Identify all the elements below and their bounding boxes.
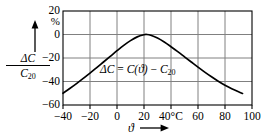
y-axis-title: ΔC C20 bbox=[6, 52, 50, 81]
y-axis-unit-label: % bbox=[22, 16, 60, 27]
formula-equals: = bbox=[117, 63, 124, 75]
y-axis-denominator: C20 bbox=[6, 66, 50, 81]
y-tick-label-0: 20 bbox=[22, 5, 60, 17]
formula-c-of-theta: C(ϑ) bbox=[127, 63, 148, 75]
y-tick-label-1: 0 bbox=[22, 29, 60, 41]
y-axis-denominator-symbol: C bbox=[20, 67, 28, 79]
x-axis-arrow-head bbox=[161, 125, 169, 132]
y-axis-denominator-subscript: 20 bbox=[28, 72, 36, 81]
formula-c20-symbol: C bbox=[160, 63, 168, 75]
y-tick-label-4: −60 bbox=[22, 99, 60, 111]
formula-delta-c: ΔC bbox=[100, 63, 114, 75]
formula-minus: − bbox=[151, 63, 158, 75]
gridlines-group bbox=[63, 11, 252, 105]
x-axis-title: ϑ bbox=[128, 122, 134, 134]
capacitance-temperature-chart: % 200−20−40−60 −40−2002040°C6080100 ΔC C… bbox=[0, 0, 277, 140]
y-axis-numerator: ΔC bbox=[6, 52, 50, 66]
formula-c20-subscript: 20 bbox=[168, 68, 176, 77]
formula-annotation: ΔC = C(ϑ) − C20 bbox=[100, 64, 176, 77]
x-tick-label-7: 100 bbox=[235, 111, 269, 123]
tick-marks-group bbox=[63, 105, 252, 109]
